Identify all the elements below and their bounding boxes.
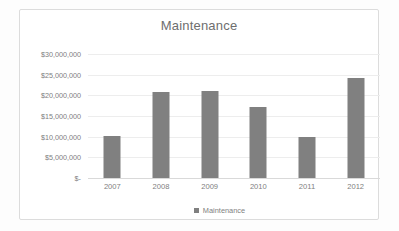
- scanned-page-background: Maintenance $-$5,000,000$10,000,000$15,0…: [0, 0, 399, 231]
- square-marker-icon: [194, 208, 199, 213]
- y-axis-tick-label: $10,000,000: [41, 132, 81, 141]
- y-axis-tick-label: $15,000,000: [41, 112, 81, 121]
- y-axis-tick-label: $20,000,000: [41, 91, 81, 100]
- bar-2010[interactable]: [250, 107, 267, 178]
- bar-2007[interactable]: [104, 136, 121, 178]
- x-axis-tick-label: 2012: [347, 182, 364, 191]
- x-axis-tick-label: 2011: [299, 182, 315, 191]
- y-axis-tick-label: $5,000,000: [45, 153, 81, 162]
- bar-slot: [137, 54, 186, 178]
- bar-slot: [185, 54, 234, 178]
- bar-2008[interactable]: [152, 92, 169, 178]
- y-axis-tick-label: $25,000,000: [41, 70, 81, 79]
- bar-2009[interactable]: [201, 91, 218, 178]
- y-axis-tick-label: $-: [75, 174, 81, 183]
- bar-series-maintenance: [88, 54, 380, 178]
- y-axis-tick-label: $30,000,000: [41, 50, 81, 59]
- chart-legend: Maintenance: [20, 206, 399, 215]
- axis-baseline: [88, 178, 380, 179]
- bar-slot: [234, 54, 283, 178]
- chart-container: Maintenance $-$5,000,000$10,000,000$15,0…: [19, 9, 379, 220]
- legend-item-label: Maintenance: [203, 206, 245, 215]
- bar-slot: [283, 54, 332, 178]
- bar-2011[interactable]: [298, 137, 315, 178]
- x-axis-tick-label: 2008: [153, 182, 170, 191]
- plot-area: $-$5,000,000$10,000,000$15,000,000$20,00…: [88, 54, 380, 178]
- bar-slot: [331, 54, 380, 178]
- x-axis-tick-label: 2009: [201, 182, 218, 191]
- x-axis-tick-labels: 200720082009201020112012: [88, 182, 380, 196]
- chart-title: Maintenance: [20, 18, 378, 33]
- x-axis-tick-label: 2010: [250, 182, 267, 191]
- x-axis-tick-label: 2007: [104, 182, 121, 191]
- bar-2012[interactable]: [347, 78, 364, 178]
- bar-slot: [88, 54, 137, 178]
